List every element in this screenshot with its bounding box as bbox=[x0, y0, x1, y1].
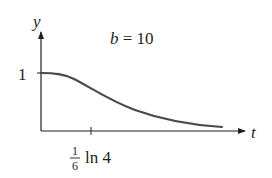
param-var: b bbox=[110, 29, 119, 48]
param-eq: = 10 bbox=[119, 29, 154, 48]
curve-series bbox=[41, 73, 222, 127]
y-tick-label-one: 1 bbox=[18, 65, 27, 84]
x-tick-label: 1 6 ln 4 bbox=[70, 144, 111, 173]
parameter-annotation: b = 10 bbox=[110, 29, 154, 48]
x-axis-label: t bbox=[251, 123, 257, 142]
fraction-numerator: 1 bbox=[72, 144, 78, 158]
x-tick-label-rest: ln 4 bbox=[85, 148, 111, 167]
fraction-denominator: 6 bbox=[72, 159, 78, 173]
chart-canvas: y t 1 b = 10 1 6 ln 4 bbox=[0, 0, 272, 178]
y-axis-label: y bbox=[31, 12, 41, 31]
